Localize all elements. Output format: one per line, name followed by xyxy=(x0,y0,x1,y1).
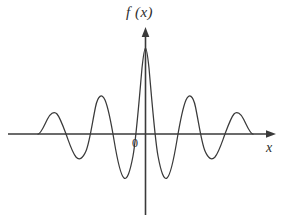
x-axis-arrow-icon xyxy=(266,130,276,138)
origin-label: 0 xyxy=(132,136,138,151)
x-axis-label: x xyxy=(266,140,272,156)
y-axis xyxy=(142,27,150,215)
x-axis xyxy=(8,130,276,138)
y-axis-arrow-icon xyxy=(142,27,150,37)
plot-canvas xyxy=(0,0,283,223)
function-plot-figure: f (x) x 0 xyxy=(0,0,283,223)
y-axis-label: f (x) xyxy=(126,4,153,21)
